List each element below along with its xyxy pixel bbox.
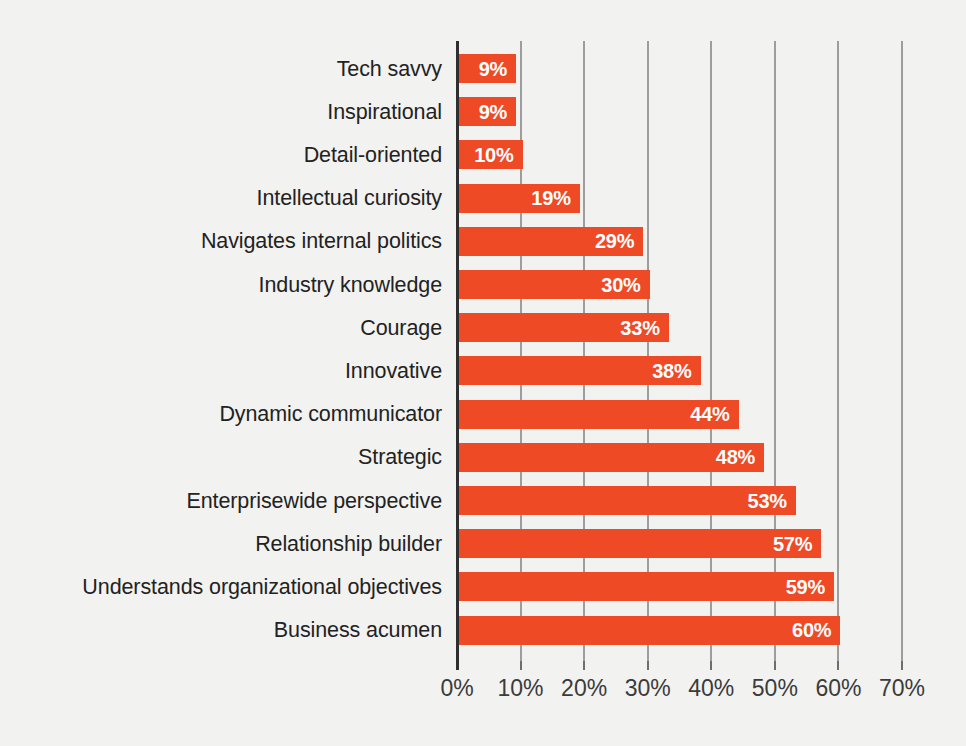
bar-row: Dynamic communicator44%	[0, 400, 966, 429]
bar-chart-figure: 0%10%20%30%40%50%60%70% Tech savvy9%Insp…	[0, 0, 966, 746]
bar-row: Understands organizational objectives59%	[0, 572, 966, 601]
x-tick-label-60: 60%	[815, 675, 861, 702]
x-tick-label-0: 0%	[440, 675, 473, 702]
x-tick-mark-50	[774, 661, 776, 670]
x-tick-mark-70	[901, 661, 903, 670]
bar[interactable]: 44%	[459, 400, 739, 429]
category-label: Detail-oriented	[304, 142, 442, 167]
bar[interactable]: 9%	[459, 97, 516, 126]
bar-value-label: 59%	[786, 575, 825, 598]
category-label: Business acumen	[274, 618, 442, 643]
bar-value-label: 38%	[652, 359, 691, 382]
x-tick-label-10: 10%	[498, 675, 544, 702]
category-label: Tech savvy	[337, 56, 442, 81]
bar-rows: Tech savvy9%Inspirational9%Detail-orient…	[0, 41, 966, 661]
bar[interactable]: 19%	[459, 184, 580, 213]
x-tick-label-50: 50%	[752, 675, 798, 702]
bar[interactable]: 30%	[459, 270, 650, 299]
bar-row: Innovative38%	[0, 356, 966, 385]
bar[interactable]: 59%	[459, 572, 834, 601]
x-tick-mark-0	[456, 661, 459, 670]
bar-value-label: 30%	[601, 273, 640, 296]
x-tick-label-20: 20%	[561, 675, 607, 702]
bar-row: Courage33%	[0, 313, 966, 342]
axis-line	[456, 41, 459, 661]
category-label: Industry knowledge	[259, 272, 442, 297]
bar-value-label: 48%	[716, 446, 755, 469]
bar[interactable]: 33%	[459, 313, 669, 342]
bar-value-label: 53%	[747, 489, 786, 512]
x-tick-label-70: 70%	[879, 675, 925, 702]
x-tick-mark-30	[647, 661, 649, 670]
category-label: Enterprisewide perspective	[186, 488, 442, 513]
bar-value-label: 44%	[690, 403, 729, 426]
x-tick-mark-20	[583, 661, 585, 670]
bar[interactable]: 57%	[459, 529, 821, 558]
bar[interactable]: 10%	[459, 140, 523, 169]
bar-row: Business acumen60%	[0, 616, 966, 645]
bar-value-label: 10%	[474, 143, 513, 166]
bar-row: Detail-oriented10%	[0, 140, 966, 169]
bar-row: Navigates internal politics29%	[0, 227, 966, 256]
x-tick-mark-40	[710, 661, 712, 670]
bar[interactable]: 48%	[459, 443, 764, 472]
bar-value-label: 29%	[595, 230, 634, 253]
category-label: Strategic	[358, 445, 442, 470]
bar[interactable]: 9%	[459, 54, 516, 83]
bar-value-label: 9%	[479, 57, 508, 80]
category-label: Navigates internal politics	[201, 229, 442, 254]
bar-row: Inspirational9%	[0, 97, 966, 126]
category-label: Intellectual curiosity	[257, 186, 442, 211]
bar-value-label: 33%	[620, 316, 659, 339]
bar-row: Enterprisewide perspective53%	[0, 486, 966, 515]
category-label: Dynamic communicator	[219, 402, 442, 427]
bar[interactable]: 38%	[459, 356, 701, 385]
x-tick-label-30: 30%	[625, 675, 671, 702]
x-tick-mark-60	[837, 661, 839, 670]
category-label: Innovative	[345, 358, 442, 383]
x-tick-mark-10	[520, 661, 522, 670]
bar-value-label: 57%	[773, 532, 812, 555]
bar[interactable]: 53%	[459, 486, 796, 515]
bar-row: Industry knowledge30%	[0, 270, 966, 299]
bar-value-label: 60%	[792, 619, 831, 642]
bar[interactable]: 60%	[459, 616, 840, 645]
x-tick-label-40: 40%	[688, 675, 734, 702]
bar-value-label: 19%	[531, 187, 570, 210]
category-label: Understands organizational objectives	[82, 574, 442, 599]
bar-row: Relationship builder57%	[0, 529, 966, 558]
bar-row: Tech savvy9%	[0, 54, 966, 83]
category-label: Courage	[360, 315, 442, 340]
category-label: Relationship builder	[255, 531, 442, 556]
bar-value-label: 9%	[479, 100, 508, 123]
bar[interactable]: 29%	[459, 227, 643, 256]
bar-row: Intellectual curiosity19%	[0, 184, 966, 213]
bar-row: Strategic48%	[0, 443, 966, 472]
category-label: Inspirational	[327, 99, 442, 124]
